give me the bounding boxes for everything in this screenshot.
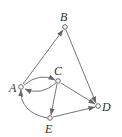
edge-a-c (24, 77, 55, 85)
edge-c-d (61, 83, 95, 104)
edge-c-e (51, 84, 57, 115)
label-d: D (101, 100, 111, 114)
label-e: E (44, 122, 53, 136)
edge-e-d (53, 107, 95, 117)
edge-b-d (66, 30, 96, 103)
graph-diagram: A B C D E (0, 0, 122, 137)
edge-e-a (21, 90, 47, 118)
node-a (19, 85, 24, 90)
node-c (56, 79, 61, 84)
label-b: B (60, 10, 68, 24)
label-a: A (8, 81, 17, 95)
edge-c-a (25, 83, 56, 91)
node-e (48, 116, 53, 121)
node-b (63, 25, 68, 30)
node-d (96, 104, 101, 109)
label-c: C (54, 64, 63, 78)
